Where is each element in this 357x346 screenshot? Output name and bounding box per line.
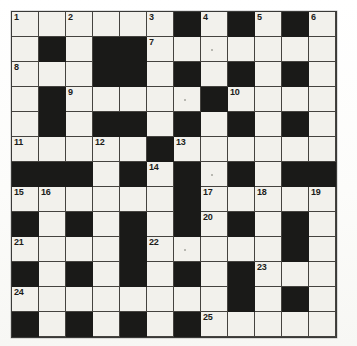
white-cell[interactable] bbox=[309, 112, 336, 137]
white-cell[interactable] bbox=[282, 37, 309, 62]
white-cell[interactable] bbox=[255, 162, 282, 187]
white-cell[interactable] bbox=[255, 312, 282, 337]
white-cell[interactable] bbox=[93, 187, 120, 212]
white-cell[interactable]: 12 bbox=[93, 137, 120, 162]
white-cell[interactable] bbox=[66, 187, 93, 212]
white-cell[interactable] bbox=[282, 312, 309, 337]
white-cell[interactable] bbox=[201, 287, 228, 312]
white-cell[interactable] bbox=[255, 137, 282, 162]
white-cell[interactable]: 16 bbox=[39, 187, 66, 212]
white-cell[interactable] bbox=[228, 312, 255, 337]
white-cell[interactable] bbox=[201, 112, 228, 137]
white-cell[interactable] bbox=[147, 87, 174, 112]
white-cell[interactable] bbox=[39, 312, 66, 337]
white-cell[interactable] bbox=[255, 287, 282, 312]
white-cell[interactable]: 4 bbox=[201, 12, 228, 37]
white-cell[interactable] bbox=[201, 62, 228, 87]
white-cell[interactable]: 7 bbox=[147, 37, 174, 62]
white-cell[interactable] bbox=[147, 312, 174, 337]
white-cell[interactable] bbox=[174, 287, 201, 312]
white-cell[interactable]: 9 bbox=[66, 87, 93, 112]
white-cell[interactable] bbox=[228, 137, 255, 162]
white-cell[interactable] bbox=[12, 87, 39, 112]
white-cell[interactable]: 5 bbox=[255, 12, 282, 37]
white-cell[interactable] bbox=[39, 12, 66, 37]
white-cell[interactable] bbox=[120, 12, 147, 37]
white-cell[interactable] bbox=[228, 37, 255, 62]
white-cell[interactable] bbox=[201, 137, 228, 162]
white-cell[interactable]: 13 bbox=[174, 137, 201, 162]
white-cell[interactable] bbox=[309, 237, 336, 262]
white-cell[interactable] bbox=[255, 62, 282, 87]
white-cell[interactable]: 11 bbox=[12, 137, 39, 162]
white-cell[interactable] bbox=[93, 237, 120, 262]
white-cell[interactable]: 19 bbox=[309, 187, 336, 212]
white-cell[interactable] bbox=[309, 262, 336, 287]
white-cell[interactable] bbox=[255, 237, 282, 262]
white-cell[interactable]: 8 bbox=[12, 62, 39, 87]
white-cell[interactable] bbox=[147, 187, 174, 212]
white-cell[interactable] bbox=[93, 87, 120, 112]
crossword-grid[interactable]: 1234567891011121314151617181920212223242… bbox=[11, 11, 337, 338]
white-cell[interactable] bbox=[66, 37, 93, 62]
white-cell[interactable] bbox=[39, 137, 66, 162]
white-cell[interactable]: 10 bbox=[228, 87, 255, 112]
white-cell[interactable]: 21 bbox=[12, 237, 39, 262]
white-cell[interactable] bbox=[120, 187, 147, 212]
white-cell[interactable] bbox=[201, 37, 228, 62]
white-cell[interactable] bbox=[147, 287, 174, 312]
white-cell[interactable] bbox=[147, 262, 174, 287]
white-cell[interactable] bbox=[228, 237, 255, 262]
white-cell[interactable]: 3 bbox=[147, 12, 174, 37]
white-cell[interactable] bbox=[66, 237, 93, 262]
white-cell[interactable] bbox=[174, 87, 201, 112]
white-cell[interactable] bbox=[309, 37, 336, 62]
white-cell[interactable] bbox=[255, 87, 282, 112]
white-cell[interactable] bbox=[66, 137, 93, 162]
white-cell[interactable] bbox=[309, 137, 336, 162]
white-cell[interactable] bbox=[201, 237, 228, 262]
white-cell[interactable] bbox=[66, 287, 93, 312]
white-cell[interactable] bbox=[309, 312, 336, 337]
white-cell[interactable] bbox=[147, 62, 174, 87]
white-cell[interactable]: 20 bbox=[201, 212, 228, 237]
white-cell[interactable] bbox=[255, 37, 282, 62]
white-cell[interactable] bbox=[282, 187, 309, 212]
white-cell[interactable]: 23 bbox=[255, 262, 282, 287]
white-cell[interactable] bbox=[93, 162, 120, 187]
white-cell[interactable] bbox=[255, 212, 282, 237]
white-cell[interactable] bbox=[39, 262, 66, 287]
white-cell[interactable]: 1 bbox=[12, 12, 39, 37]
white-cell[interactable] bbox=[93, 287, 120, 312]
white-cell[interactable] bbox=[66, 112, 93, 137]
white-cell[interactable] bbox=[282, 262, 309, 287]
white-cell[interactable] bbox=[93, 312, 120, 337]
white-cell[interactable] bbox=[93, 12, 120, 37]
white-cell[interactable] bbox=[201, 262, 228, 287]
white-cell[interactable] bbox=[309, 62, 336, 87]
white-cell[interactable] bbox=[228, 187, 255, 212]
white-cell[interactable]: 18 bbox=[255, 187, 282, 212]
white-cell[interactable] bbox=[282, 137, 309, 162]
white-cell[interactable] bbox=[147, 212, 174, 237]
white-cell[interactable]: 24 bbox=[12, 287, 39, 312]
white-cell[interactable] bbox=[120, 87, 147, 112]
white-cell[interactable] bbox=[282, 87, 309, 112]
white-cell[interactable] bbox=[39, 237, 66, 262]
white-cell[interactable] bbox=[93, 262, 120, 287]
white-cell[interactable] bbox=[201, 162, 228, 187]
white-cell[interactable] bbox=[39, 287, 66, 312]
white-cell[interactable] bbox=[309, 87, 336, 112]
white-cell[interactable] bbox=[12, 37, 39, 62]
white-cell[interactable] bbox=[39, 212, 66, 237]
white-cell[interactable] bbox=[174, 37, 201, 62]
white-cell[interactable]: 22 bbox=[147, 237, 174, 262]
white-cell[interactable]: 17 bbox=[201, 187, 228, 212]
white-cell[interactable] bbox=[309, 287, 336, 312]
white-cell[interactable]: 15 bbox=[12, 187, 39, 212]
white-cell[interactable] bbox=[174, 237, 201, 262]
white-cell[interactable]: 6 bbox=[309, 12, 336, 37]
white-cell[interactable] bbox=[120, 287, 147, 312]
white-cell[interactable] bbox=[93, 212, 120, 237]
white-cell[interactable] bbox=[147, 112, 174, 137]
